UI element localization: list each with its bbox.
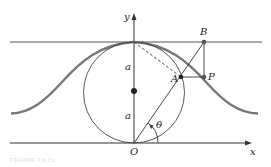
point-b-label: B — [199, 26, 207, 37]
y-axis-label: y — [123, 11, 130, 22]
origin-label: O — [130, 146, 138, 157]
witch-of-agnesi-diagram: y x O A B P a a θ FIGURE 10.1x — [0, 0, 271, 167]
point-a — [179, 75, 184, 80]
circle-center-point — [131, 88, 137, 94]
lower-radius-label: a — [125, 110, 131, 121]
ray-ob — [134, 42, 204, 143]
figure-caption: FIGURE 10.1x — [10, 157, 56, 163]
x-axis-arrow-icon — [245, 141, 252, 146]
y-axis-arrow-icon — [132, 13, 137, 20]
upper-radius-label: a — [125, 61, 131, 72]
angle-arrow-icon — [150, 125, 154, 130]
theta-label: θ — [156, 119, 162, 130]
point-p — [202, 75, 207, 80]
point-b — [202, 40, 207, 45]
point-a-label: A — [170, 73, 178, 84]
x-axis-label: x — [250, 146, 256, 157]
point-p-label: P — [207, 71, 215, 82]
